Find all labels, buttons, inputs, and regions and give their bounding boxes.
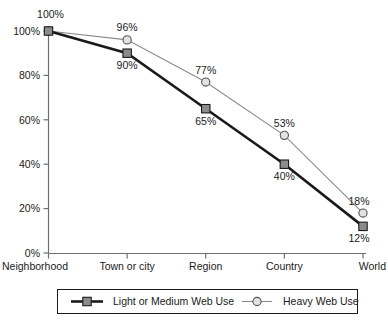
data-point-marker-heavy <box>280 131 288 139</box>
x-axis-category-label: Country <box>266 260 304 272</box>
y-axis-tick-label: 0% <box>25 247 40 259</box>
x-axis-category-label: World <box>359 260 386 272</box>
data-point-marker-light-or-medium <box>280 160 288 168</box>
x-axis-ticks <box>49 254 364 259</box>
x-axis-category-labels: NeighborhoodTown or cityRegionCountryWor… <box>2 260 386 272</box>
data-label-heavy: 77% <box>195 64 216 76</box>
legend-circle-marker <box>253 297 261 305</box>
data-label-heavy: 53% <box>274 117 295 129</box>
data-label-light-or-medium: 65% <box>195 115 216 127</box>
y-axis-tick-label: 20% <box>19 202 40 214</box>
legend-content: Light or Medium Web UseHeavy Web Use <box>71 295 359 307</box>
chart-container: 0%20%40%60%80%100% NeighborhoodTown or c… <box>0 0 388 324</box>
y-axis-tick-label: 60% <box>19 114 40 126</box>
series-markers-light-or-medium-web-use <box>44 27 367 231</box>
x-axis-category-label: Neighborhood <box>2 260 68 272</box>
data-label-light-or-medium: 40% <box>274 170 295 182</box>
data-point-labels: 100%96%90%77%65%53%40%18%12% <box>37 8 369 244</box>
data-label-light-or-medium: 12% <box>348 232 369 244</box>
line-chart: 0%20%40%60%80%100% NeighborhoodTown or c… <box>0 0 388 324</box>
data-point-marker-light-or-medium <box>359 222 367 230</box>
data-label-heavy: 18% <box>348 195 369 207</box>
series-line-light-or-medium-web-use <box>49 31 364 226</box>
x-axis-category-label: Region <box>189 260 222 272</box>
data-point-marker-heavy <box>123 36 131 44</box>
y-axis-tick-label: 100% <box>13 25 40 37</box>
y-axis-tick-label: 80% <box>19 69 40 81</box>
y-axis-tick-labels: 0%20%40%60%80%100% <box>13 25 40 259</box>
data-point-marker-heavy <box>202 78 210 86</box>
data-point-marker-heavy <box>359 209 367 217</box>
y-axis-ticks <box>44 31 49 253</box>
data-label-light-or-medium: 90% <box>117 59 138 71</box>
y-axis-tick-label: 40% <box>19 158 40 170</box>
legend-label-heavy: Heavy Web Use <box>283 295 359 307</box>
legend-label-light-or-medium: Light or Medium Web Use <box>113 295 234 307</box>
data-point-marker-light-or-medium <box>44 27 52 35</box>
data-point-marker-light-or-medium <box>123 49 131 57</box>
data-label-neighborhood: 100% <box>37 8 64 20</box>
data-label-heavy: 96% <box>117 21 138 33</box>
x-axis-category-label: Town or city <box>99 260 155 272</box>
legend-square-marker <box>83 297 91 305</box>
data-point-marker-light-or-medium <box>202 105 210 113</box>
series-polyline-light-or-medium-web-use <box>49 31 364 226</box>
